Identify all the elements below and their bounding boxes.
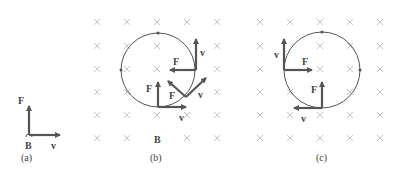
panel-b-field-grid xyxy=(94,19,220,141)
field-label: B xyxy=(154,134,161,145)
velocity-label: v xyxy=(198,89,203,100)
panel-b: F v F v F v B (b) xyxy=(120,32,207,165)
field-label: B xyxy=(25,140,32,151)
orbit-dot-left xyxy=(120,69,123,72)
force-label: F xyxy=(311,84,317,95)
velocity-label: v xyxy=(179,112,184,123)
force-label: F xyxy=(169,90,175,101)
velocity-label: v xyxy=(301,113,306,124)
panel-caption: (b) xyxy=(150,152,162,164)
panel-caption: (c) xyxy=(316,152,327,164)
velocity-label: v xyxy=(51,140,56,151)
force-label: F xyxy=(146,83,152,94)
panel-a: F B v (a) xyxy=(18,95,60,164)
force-label: F xyxy=(173,56,179,67)
magnetic-force-diagram: F B v (a) F v F v F v xyxy=(0,0,406,173)
velocity-arrow-icon xyxy=(186,78,206,97)
panel-c-field-grid xyxy=(257,19,383,141)
force-label: F xyxy=(18,95,24,106)
panel-c: v F F v (c) xyxy=(274,31,362,165)
force-label: F xyxy=(302,56,308,67)
velocity-label: v xyxy=(274,49,279,60)
panel-caption: (a) xyxy=(21,152,32,164)
orbit-dot-right xyxy=(359,69,362,72)
velocity-label: v xyxy=(200,47,205,58)
orbit-dot-top xyxy=(321,31,324,34)
orbit-dot-top xyxy=(157,32,160,35)
